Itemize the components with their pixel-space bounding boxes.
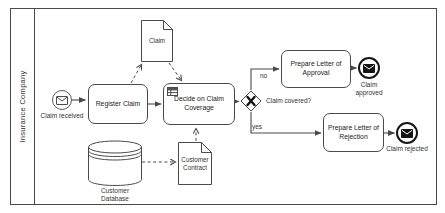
end-rejected-label: Claim rejected bbox=[385, 145, 429, 153]
database-cylinder-icon bbox=[88, 140, 142, 186]
branch-no-label: no bbox=[260, 72, 274, 80]
assoc-claimdoc-to-decide bbox=[169, 63, 182, 81]
data-store-customer-database bbox=[88, 140, 142, 186]
branch-yes-label: yes bbox=[252, 123, 268, 131]
task-decide-coverage-label: Decide on Claim Coverage bbox=[166, 95, 232, 113]
task-prepare-approval: Prepare Letter of Approval bbox=[281, 50, 351, 88]
task-register-claim-label: Register Claim bbox=[96, 100, 141, 109]
end-event-rejected bbox=[396, 122, 418, 144]
business-rule-table-icon bbox=[167, 87, 178, 96]
task-prepare-approval-label: Prepare Letter of Approval bbox=[284, 60, 348, 78]
bpmn-diagram: Insurance Company Claim r bbox=[0, 0, 445, 213]
envelope-filled-icon bbox=[401, 129, 413, 138]
data-store-label: Customer Database bbox=[93, 187, 137, 203]
envelope-outline-icon bbox=[56, 96, 68, 105]
task-register-claim: Register Claim bbox=[88, 84, 148, 124]
start-event-message bbox=[52, 90, 72, 110]
end-approved-label: Claim approved bbox=[347, 81, 391, 97]
end-event-approved bbox=[358, 57, 380, 79]
task-decide-coverage: Decide on Claim Coverage bbox=[163, 83, 235, 125]
data-object-claim: Claim bbox=[141, 20, 173, 62]
gateway-exclusive bbox=[240, 90, 262, 112]
data-object-customer-contract: Customer Contract bbox=[178, 142, 212, 185]
envelope-filled-icon bbox=[363, 64, 375, 73]
data-object-contract-label: Customer Contract bbox=[178, 155, 212, 171]
start-event-label: Claim received bbox=[32, 112, 92, 120]
data-object-claim-label: Claim bbox=[141, 37, 173, 45]
gateway-question-label: Claim covered? bbox=[266, 97, 316, 105]
task-prepare-rejection: Prepare Letter of Rejection bbox=[323, 113, 384, 152]
assoc-register-to-claimdoc bbox=[131, 65, 142, 84]
task-prepare-rejection-label: Prepare Letter of Rejection bbox=[326, 124, 381, 142]
xor-gateway-icon bbox=[240, 90, 262, 112]
